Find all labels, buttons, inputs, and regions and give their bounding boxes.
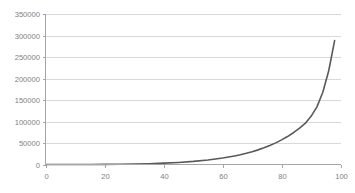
y-axis-tick-label: 250000	[15, 53, 40, 62]
y-axis-tick-label: 150000	[15, 96, 40, 105]
data-series	[46, 41, 335, 165]
line-chart-plot: 0500001000001500002000002500003000003500…	[0, 0, 355, 193]
x-axis-tick-label: 80	[278, 172, 286, 181]
x-axis-tick-label: 40	[160, 172, 168, 181]
y-axis-tick-label: 200000	[15, 75, 40, 84]
y-axis-tick-labels: 0500001000001500002000002500003000003500…	[15, 10, 40, 170]
gridlines	[46, 15, 341, 144]
y-axis-tick-label: 350000	[15, 10, 40, 19]
series-line	[46, 41, 335, 165]
x-axis-tick-label: 20	[101, 172, 109, 181]
x-axis-tick-label: 100	[335, 172, 348, 181]
y-axis-tick-label: 50000	[19, 139, 40, 148]
y-axis-tick-label: 100000	[15, 118, 40, 127]
y-axis-tick-label: 300000	[15, 32, 40, 41]
x-axis-tick-label: 0	[44, 172, 48, 181]
y-axis-tick-label: 0	[36, 161, 40, 170]
x-axis-tick-labels: 020406080100	[44, 172, 347, 181]
chart-container: 0500001000001500002000002500003000003500…	[0, 0, 355, 193]
axis-tickmarks	[43, 15, 342, 169]
x-axis-tick-label: 60	[219, 172, 227, 181]
